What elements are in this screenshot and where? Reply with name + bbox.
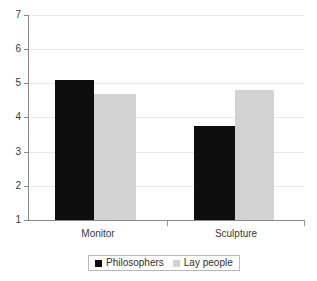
- bar-monitor-lay-people: [94, 94, 136, 220]
- legend-label-lay-people: Lay people: [184, 258, 233, 268]
- y-tick-label-2: 2: [6, 181, 21, 191]
- legend-label-philosophers: Philosophers: [106, 258, 164, 268]
- y-tick-label-7: 7: [6, 10, 21, 20]
- legend-swatch-philosophers-icon: [95, 260, 102, 267]
- category-tick-end: [304, 221, 305, 226]
- y-tick-mark-3: [24, 152, 29, 153]
- legend-item-lay-people: Lay people: [173, 258, 233, 268]
- y-tick-label-1: 1: [6, 215, 21, 225]
- bar-sculpture-philosophers: [194, 126, 235, 220]
- bar-chart: 7 6 5 4 3 2 1 Monitor Sculpture Philosop…: [0, 0, 317, 281]
- y-tick-mark-5: [24, 83, 29, 84]
- gridline-7: [28, 15, 304, 16]
- y-tick-mark-4: [24, 117, 29, 118]
- bar-sculpture-lay-people: [235, 90, 274, 220]
- y-tick-mark-6: [24, 49, 29, 50]
- bar-monitor-philosophers: [55, 80, 94, 220]
- y-axis-line: [28, 15, 29, 221]
- plot-area: [28, 15, 304, 220]
- x-tick-label-sculpture: Sculpture: [192, 228, 280, 240]
- legend-swatch-lay-people-icon: [173, 260, 180, 267]
- legend-item-philosophers: Philosophers: [95, 258, 164, 268]
- y-tick-mark-1: [24, 220, 29, 221]
- y-tick-mark-7: [24, 15, 29, 16]
- y-tick-label-5: 5: [6, 78, 21, 88]
- y-tick-mark-2: [24, 186, 29, 187]
- y-tick-label-4: 4: [6, 112, 21, 122]
- y-tick-label-6: 6: [6, 44, 21, 54]
- y-tick-label-3: 3: [6, 147, 21, 157]
- gridline-6: [28, 49, 304, 50]
- chart-legend: Philosophers Lay people: [88, 255, 240, 271]
- category-tick-mid: [167, 221, 168, 226]
- x-tick-label-monitor: Monitor: [56, 228, 140, 240]
